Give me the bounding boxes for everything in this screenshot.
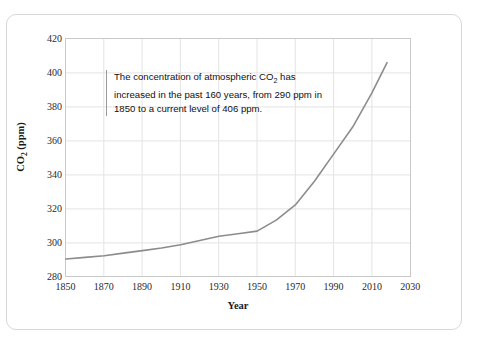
x-tick-1890: 1890: [122, 281, 162, 292]
x-tick-2010: 2010: [352, 281, 392, 292]
x-tick-1910: 1910: [160, 281, 200, 292]
y-axis-title-suffix: (ppm): [15, 122, 26, 152]
y-axis-title: CO2 (ppm): [15, 107, 29, 187]
note-line-2: increased in the past 160 years, from 29…: [114, 89, 291, 100]
y-tick-400: 400: [32, 67, 62, 78]
co2-line-chart: 420 400 380 360 340 320 300 280 1850 187…: [0, 0, 480, 341]
y-tick-380: 380: [32, 101, 62, 112]
x-tick-1990: 1990: [314, 281, 354, 292]
note-line-1: The concentration of atmospheric CO: [114, 71, 273, 82]
x-tick-1970: 1970: [275, 281, 315, 292]
x-tick-1930: 1930: [199, 281, 239, 292]
note-line-1-end: has: [277, 71, 295, 82]
x-tick-1950: 1950: [237, 281, 277, 292]
y-tick-300: 300: [32, 237, 62, 248]
y-tick-360: 360: [32, 135, 62, 146]
x-axis-title: Year: [65, 300, 411, 311]
co2-summary-note: The concentration of atmospheric CO2 has…: [106, 70, 332, 116]
x-tick-1850: 1850: [46, 281, 86, 292]
y-axis-title-subscript: 2: [20, 152, 29, 156]
x-tick-1870: 1870: [84, 281, 124, 292]
y-tick-420: 420: [32, 33, 62, 44]
y-tick-340: 340: [32, 169, 62, 180]
x-tick-2030: 2030: [390, 281, 430, 292]
y-axis-title-prefix: CO: [15, 156, 26, 172]
y-tick-320: 320: [32, 203, 62, 214]
chart-page: 420 400 380 360 340 320 300 280 1850 187…: [0, 0, 480, 341]
